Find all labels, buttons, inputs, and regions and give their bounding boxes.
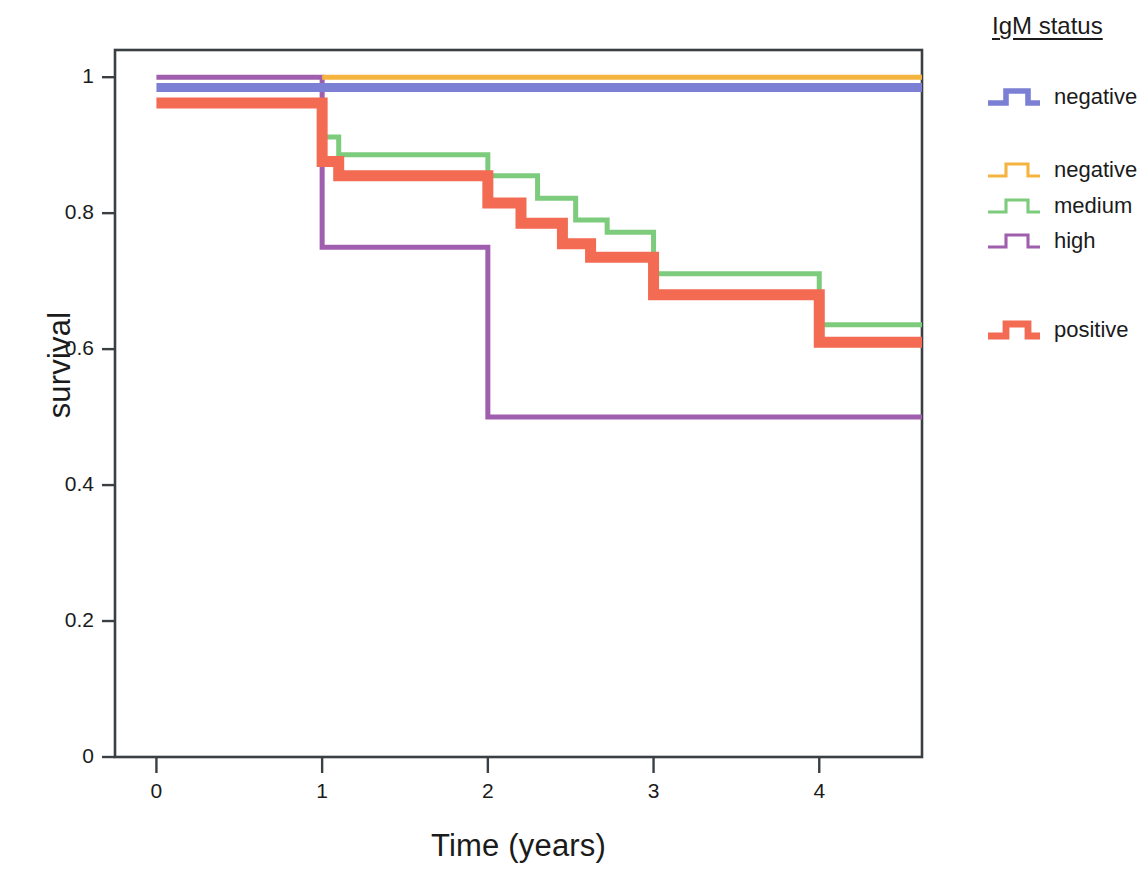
legend-entry-label: negative [1054, 86, 1137, 108]
legend-entry-label: medium [1054, 195, 1132, 217]
y-tick-label: 0.4 [24, 472, 94, 496]
plot-frame [115, 50, 922, 757]
y-tick-label: 0.6 [24, 336, 94, 360]
y-tick-label: 0.2 [24, 608, 94, 632]
y-tick-label: 1 [24, 64, 94, 88]
kaplan-meier-chart: survival Time (years) 00.20.40.60.81 012… [0, 0, 960, 874]
x-tick-label: 1 [292, 779, 352, 803]
legend-entry[interactable]: negative [986, 153, 1137, 187]
legend-entry[interactable]: positive [986, 313, 1129, 347]
y-tick-label: 0 [24, 744, 94, 768]
legend-color-swatch [986, 193, 1042, 219]
chart-legend: IgM status negativenegativemediumhighpos… [986, 0, 1126, 874]
legend-color-swatch [986, 157, 1042, 183]
x-axis-title: Time (years) [115, 828, 922, 864]
plot-canvas [0, 0, 960, 874]
legend-entry[interactable]: negative [986, 80, 1137, 114]
legend-entry-label: negative [1054, 159, 1137, 181]
legend-entry-label: high [1054, 230, 1096, 252]
y-tick-label: 0.8 [24, 200, 94, 224]
legend-color-swatch [986, 317, 1042, 343]
x-tick-label: 2 [458, 779, 518, 803]
legend-color-swatch [986, 84, 1042, 110]
legend-entry[interactable]: high [986, 224, 1096, 258]
legend-entry[interactable]: medium [986, 189, 1132, 223]
legend-color-swatch [986, 228, 1042, 254]
legend-entry-label: positive [1054, 319, 1129, 341]
y-axis-title: survival [42, 255, 78, 475]
x-tick-label: 4 [789, 779, 849, 803]
x-tick-label: 0 [126, 779, 186, 803]
x-tick-label: 3 [624, 779, 684, 803]
legend-title: IgM status [992, 12, 1103, 40]
